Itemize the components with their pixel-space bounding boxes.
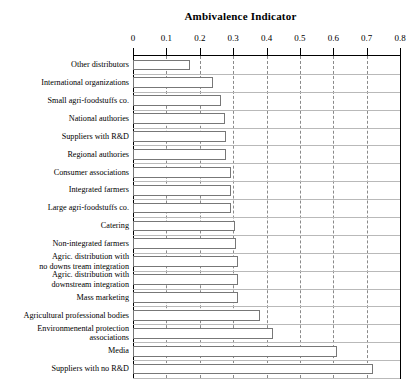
category-label: Agricultural professional bodies <box>5 311 133 321</box>
category-label: Other distributors <box>5 60 133 70</box>
x-tick-label: 0.4 <box>261 33 272 43</box>
category-label: Agric. distribution with no downs tream … <box>5 252 133 271</box>
bar-row <box>133 292 400 303</box>
bar-row <box>133 364 400 375</box>
x-tick-mark <box>400 48 401 56</box>
chart-title: Ambivalence Indicator <box>0 10 419 22</box>
x-tick-label: 0.5 <box>294 33 305 43</box>
bar <box>133 131 226 142</box>
axis-right-line <box>400 55 401 379</box>
row-baseline <box>133 235 400 236</box>
row-baseline <box>133 110 400 111</box>
category-label: Consumer associations <box>5 168 133 178</box>
row-baseline <box>133 128 400 129</box>
x-tick-mark <box>300 48 301 56</box>
bar <box>133 149 226 160</box>
bar <box>133 292 238 303</box>
x-tick-mark <box>333 48 334 56</box>
bar-row <box>133 328 400 339</box>
x-tick-label: 0.3 <box>228 33 239 43</box>
bar-row <box>133 221 400 232</box>
bar <box>133 113 225 124</box>
plot-area <box>133 56 400 378</box>
bar <box>133 167 231 178</box>
bar <box>133 364 373 375</box>
x-tick-mark <box>166 48 167 56</box>
category-label: Suppliers with R&D <box>5 132 133 142</box>
row-baseline <box>133 181 400 182</box>
x-tick-mark <box>267 48 268 56</box>
bar <box>133 221 235 232</box>
x-tick-label: 0 <box>131 33 136 43</box>
row-baseline <box>133 378 400 379</box>
row-baseline <box>133 74 400 75</box>
x-tick-label: 0.6 <box>328 33 339 43</box>
row-baseline <box>133 342 400 343</box>
bar-row <box>133 131 400 142</box>
x-tick-mark <box>367 48 368 56</box>
bar <box>133 203 231 214</box>
x-tick-label: 0.2 <box>194 33 205 43</box>
bar-row <box>133 60 400 71</box>
category-label: Small agri-foodstuffs co. <box>5 96 133 106</box>
row-baseline <box>133 306 400 307</box>
bar-row <box>133 203 400 214</box>
bar <box>133 95 221 106</box>
x-tick-mark <box>200 48 201 56</box>
x-tick-label: 0.1 <box>161 33 172 43</box>
category-label: International organizations <box>5 78 133 88</box>
x-tick-mark <box>233 48 234 56</box>
x-tick-mark <box>133 48 134 56</box>
bar <box>133 60 190 71</box>
bar-row <box>133 310 400 321</box>
bar-row <box>133 274 400 285</box>
category-label: Suppliers with no R&D <box>5 364 133 374</box>
bar-row <box>133 95 400 106</box>
category-label: National authories <box>5 114 133 124</box>
category-label: Large agri-foodstuffs co. <box>5 203 133 213</box>
category-label: Environmenental protection associations <box>5 324 133 343</box>
category-labels: Other distributorsInternational organiza… <box>0 56 133 378</box>
category-label: Media <box>5 346 133 356</box>
bar-row <box>133 185 400 196</box>
row-baseline <box>133 92 400 93</box>
row-baseline <box>133 271 400 272</box>
bar-row <box>133 167 400 178</box>
bar-row <box>133 238 400 249</box>
row-baseline <box>133 145 400 146</box>
bar-row <box>133 346 400 357</box>
ambivalence-indicator-chart: Ambivalence Indicator 00.10.20.30.40.50.… <box>0 0 419 392</box>
category-label: Integrated farmers <box>5 185 133 195</box>
bar <box>133 274 238 285</box>
row-baseline <box>133 324 400 325</box>
category-label: Agric. distribution with downstream inte… <box>5 270 133 289</box>
category-label: Catering <box>5 221 133 231</box>
bar <box>133 185 231 196</box>
row-baseline <box>133 217 400 218</box>
bar-row <box>133 149 400 160</box>
bar-row <box>133 113 400 124</box>
bar-row <box>133 77 400 88</box>
bar <box>133 77 213 88</box>
bar-row <box>133 256 400 267</box>
x-tick-label: 0.7 <box>361 33 372 43</box>
bar <box>133 256 238 267</box>
bar <box>133 328 273 339</box>
row-baseline <box>133 199 400 200</box>
x-tick-label: 0.8 <box>394 33 405 43</box>
row-baseline <box>133 163 400 164</box>
category-label: Non-integrated farmers <box>5 239 133 249</box>
row-baseline <box>133 289 400 290</box>
bar <box>133 310 260 321</box>
bar <box>133 238 236 249</box>
category-label: Mass marketing <box>5 293 133 303</box>
bar <box>133 346 337 357</box>
row-baseline <box>133 360 400 361</box>
row-baseline <box>133 253 400 254</box>
category-label: Regional authories <box>5 150 133 160</box>
